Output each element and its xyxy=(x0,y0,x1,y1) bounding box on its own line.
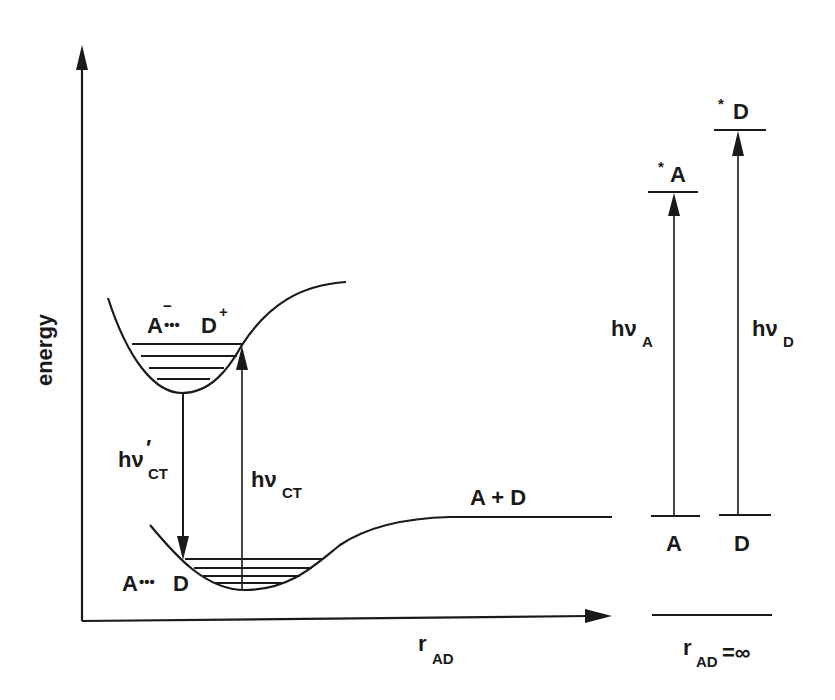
energy-diagram: energy r AD r AD =∞ A − ••• D + A ••• D … xyxy=(0,0,835,700)
svg-text:CT: CT xyxy=(148,465,168,482)
ct-emission-arrow xyxy=(177,394,189,560)
svg-text:CT: CT xyxy=(282,484,302,501)
svg-text:hν: hν xyxy=(752,316,778,341)
svg-text:A: A xyxy=(147,313,163,338)
ground-level-a: A xyxy=(651,516,700,556)
svg-text:D: D xyxy=(201,313,217,338)
svg-text:hν: hν xyxy=(118,447,144,472)
svg-text:•••: ••• xyxy=(164,316,180,333)
upper-potential-curve xyxy=(108,282,346,393)
svg-text:D: D xyxy=(733,99,749,124)
svg-text:•••: ••• xyxy=(139,573,155,590)
svg-text:+: + xyxy=(219,303,228,320)
lower-potential-curve xyxy=(150,517,612,590)
x-axis xyxy=(82,609,612,623)
ct-emission-label: hν ′ CT xyxy=(118,435,168,482)
excited-level-a: * A xyxy=(648,158,698,192)
upper-vibrational-levels xyxy=(132,344,242,379)
svg-text:D: D xyxy=(734,531,750,556)
infinity-label: r AD =∞ xyxy=(683,635,751,670)
excitation-d-label: hν D xyxy=(752,316,794,350)
ct-absorption-arrow xyxy=(236,346,248,590)
svg-text:*: * xyxy=(718,95,724,112)
excited-level-d: * D xyxy=(714,95,766,130)
svg-text:hν: hν xyxy=(251,467,277,492)
x-axis-label: r AD xyxy=(418,631,454,667)
x-axis-arrowhead-icon xyxy=(585,609,612,623)
svg-text:A: A xyxy=(642,333,653,350)
upper-state-label: A − ••• D + xyxy=(147,297,228,338)
svg-text:r: r xyxy=(683,635,692,660)
excitation-a-label: hν A xyxy=(611,316,653,350)
y-axis-arrowhead-icon xyxy=(76,45,88,70)
svg-text:=∞: =∞ xyxy=(722,640,751,665)
y-axis xyxy=(76,45,88,621)
svg-text:A: A xyxy=(666,531,682,556)
svg-text:A: A xyxy=(670,162,686,187)
ground-level-d: D xyxy=(719,515,771,556)
svg-text:D: D xyxy=(783,333,794,350)
y-axis-label: energy xyxy=(32,313,57,386)
lower-state-label: A ••• D xyxy=(122,571,189,596)
svg-text:−: − xyxy=(163,297,172,314)
asymptote-label: A + D xyxy=(470,485,526,510)
svg-text:A: A xyxy=(122,571,138,596)
svg-text:*: * xyxy=(658,158,664,175)
svg-text:AD: AD xyxy=(432,650,454,667)
ct-absorption-label: hν CT xyxy=(251,467,302,501)
svg-text:r: r xyxy=(418,631,427,656)
svg-text:D: D xyxy=(173,571,189,596)
svg-text:AD: AD xyxy=(696,653,718,670)
excitation-a-arrow xyxy=(668,193,680,516)
svg-text:′: ′ xyxy=(146,435,151,460)
excitation-d-arrow xyxy=(732,131,744,515)
svg-text:hν: hν xyxy=(611,316,637,341)
